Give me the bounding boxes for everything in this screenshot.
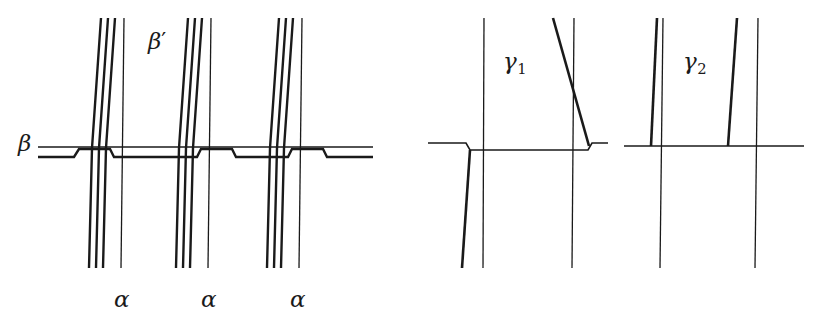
label-gamma-1-base: γ [503,48,517,74]
label-alpha-2-text: α [201,286,217,312]
label-alpha-3-text: α [290,286,306,312]
figure-canvas: β β′ α α α γ1 γ2 [0,0,828,330]
label-gamma-2: γ2 [683,50,707,76]
gamma-1-panel-gamma1-lines-thick-slant-ascending [553,18,589,146]
label-alpha-1-text: α [114,286,130,312]
gamma-1-panel-gamma1-lines-thin-vertical-right [572,18,574,268]
label-gamma-2-base: γ [683,48,697,74]
label-beta-prime-mark: ′ [161,28,166,53]
gamma-2-panel-gamma2-lines-thin-vertical-left [660,18,663,268]
label-beta-prime: β′ [148,30,166,53]
label-alpha-2: α [201,288,217,311]
label-alpha-3: α [290,288,306,311]
gamma-1-panel-gamma1-horizontal-jogged [428,143,608,150]
label-gamma-1-subscript: 1 [517,60,526,77]
gamma-1-panel-gamma1-lines-thick-slant-descending [462,150,470,268]
left-panel-beta-lower-jogged [38,149,373,157]
gamma-2-panel-gamma2-lines-thin-vertical-right [755,18,758,268]
gamma-1-panel-gamma1-lines-thin-vertical-left [483,18,484,268]
left-panel-alpha-group-2-thin-vertical [208,18,211,268]
label-beta-text: β [18,130,31,156]
label-beta: β [18,132,31,155]
gamma-2-panel-gamma2-lines-thick-slant-right [728,18,737,146]
left-panel-alpha-group-1-thin-vertical [121,18,124,268]
label-gamma-1: γ1 [503,50,527,76]
label-beta-prime-base: β [148,28,161,54]
label-alpha-1: α [114,288,130,311]
left-panel-alpha-group-3-thin-vertical [299,18,302,268]
gamma-2-panel-gamma2-lines-thick-slant-left [651,18,657,146]
label-gamma-2-subscript: 2 [697,60,706,77]
